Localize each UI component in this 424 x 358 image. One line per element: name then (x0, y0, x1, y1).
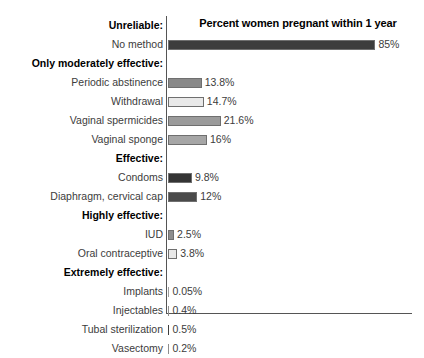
bar-row-label: Vaginal spermicides (0, 111, 163, 130)
bar-row[interactable]: Condoms9.8% (0, 168, 424, 187)
category-header-row: Only moderately effective: (0, 54, 424, 73)
bar[interactable] (168, 230, 174, 240)
bar-value-label: 13.8% (205, 73, 235, 92)
bar-row-label: Vasectomy (0, 339, 163, 358)
category-header-row: Unreliable: (0, 16, 424, 35)
bar[interactable] (168, 97, 204, 107)
bar-value-label: 0.4% (172, 301, 196, 320)
bar-row-label: Implants (0, 282, 163, 301)
bar-row-label: Periodic abstinence (0, 73, 163, 92)
category-header-label: Extremely effective: (0, 263, 163, 282)
bar-row-label: Oral contraceptive (0, 244, 163, 263)
bar[interactable] (168, 325, 169, 335)
bar-row-label: Withdrawal (0, 92, 163, 111)
bar-row[interactable]: Tubal sterilization0.5% (0, 320, 424, 339)
bar[interactable] (168, 287, 169, 297)
category-header-row: Highly effective: (0, 206, 424, 225)
bar-value-label: 14.7% (207, 92, 237, 111)
bar-row-label: Injectables (0, 301, 163, 320)
bar-row[interactable]: No method85% (0, 35, 424, 54)
bar-value-label: 9.8% (195, 168, 219, 187)
bar-row[interactable]: Periodic abstinence13.8% (0, 73, 424, 92)
category-header-label: Only moderately effective: (0, 54, 163, 73)
bar[interactable] (168, 192, 197, 202)
category-header-row: Effective: (0, 149, 424, 168)
bar-value-label: 0.5% (172, 320, 196, 339)
bar-row[interactable]: Injectables0.4% (0, 301, 424, 320)
bar-value-label: 21.6% (224, 111, 254, 130)
category-header-label: Effective: (0, 149, 163, 168)
bar-row-label: Diaphragm, cervical cap (0, 187, 163, 206)
bar[interactable] (168, 306, 169, 316)
bar-row[interactable]: Implants0.05% (0, 282, 424, 301)
bar-row[interactable]: Diaphragm, cervical cap12% (0, 187, 424, 206)
bar-row[interactable]: IUD2.5% (0, 225, 424, 244)
bar-row-label: IUD (0, 225, 163, 244)
bar[interactable] (168, 78, 202, 88)
category-header-row: Extremely effective: (0, 263, 424, 282)
bar[interactable] (168, 40, 375, 50)
bar-value-label: 12% (200, 187, 221, 206)
bar-value-label: 2.5% (177, 225, 201, 244)
bar-row-label: Condoms (0, 168, 163, 187)
bar[interactable] (168, 173, 192, 183)
bar-value-label: 0.2% (172, 339, 196, 358)
bar-row[interactable]: Vasectomy0.2% (0, 339, 424, 358)
category-header-label: Highly effective: (0, 206, 163, 225)
bar[interactable] (168, 249, 177, 259)
bar-value-label: 3.8% (180, 244, 204, 263)
bar[interactable] (168, 135, 207, 145)
bar-row[interactable]: Withdrawal14.7% (0, 92, 424, 111)
bar-row-label: Vaginal sponge (0, 130, 163, 149)
bar[interactable] (168, 116, 221, 126)
bar-value-label: 85% (378, 35, 399, 54)
bar-row-label: No method (0, 35, 163, 54)
bar[interactable] (168, 344, 169, 354)
bar-row[interactable]: Oral contraceptive3.8% (0, 244, 424, 263)
bar-row[interactable]: Vaginal spermicides21.6% (0, 111, 424, 130)
category-header-label: Unreliable: (0, 16, 163, 35)
bar-value-label: 0.05% (172, 282, 202, 301)
bar-row[interactable]: Vaginal sponge16% (0, 130, 424, 149)
bar-row-label: Tubal sterilization (0, 320, 163, 339)
bar-value-label: 16% (210, 130, 231, 149)
